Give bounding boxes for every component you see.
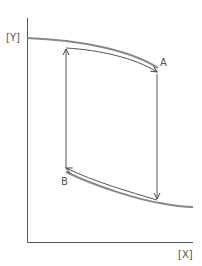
- y-axis-label: [Y]: [6, 33, 20, 43]
- x-axis-label: [X]: [178, 250, 193, 260]
- arrow-lower-to-b: [66, 168, 157, 200]
- point-a-label: A: [160, 58, 167, 68]
- diagram-canvas: [0, 0, 202, 266]
- point-b-label: B: [61, 177, 68, 187]
- main-curve-lower: [66, 172, 193, 207]
- main-curve: [27, 38, 158, 68]
